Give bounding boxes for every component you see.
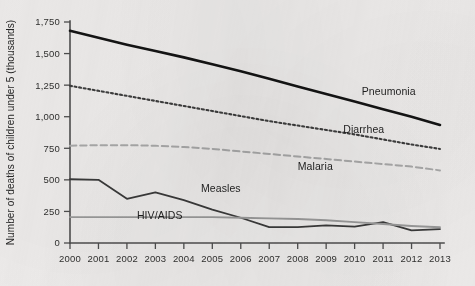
series-line-pneumonia [70,31,440,125]
y-axis-title-group: Number of deaths of children under 5 (th… [5,20,16,245]
line-chart: 02505007501,0001,2501,5001,7502000200120… [0,0,475,286]
x-axis-tick-label: 2004 [173,253,195,264]
x-axis-tick-label: 2005 [201,253,223,264]
x-axis-tick-label: 2008 [287,253,309,264]
x-axis-tick-label: 2007 [258,253,280,264]
x-axis-tick-label: 2003 [144,253,166,264]
series-line-measles [70,179,440,230]
x-axis-tick-label: 2001 [87,253,109,264]
y-axis-tick-label: 1,000 [35,111,60,122]
x-axis-tick-label: 2013 [429,253,451,264]
chart-container: 02505007501,0001,2501,5001,7502000200120… [0,0,475,286]
x-axis-tick-label: 2006 [230,253,252,264]
series-line-malaria [70,145,440,170]
x-axis-tick-label: 2010 [344,253,366,264]
y-axis-tick-label: 250 [44,206,60,217]
chart-series-layer [70,31,440,231]
y-axis-tick-label: 1,750 [35,16,60,27]
y-axis-tick-label: 1,500 [35,48,60,59]
series-label-diarrhea: Diarrhea [343,123,384,135]
series-label-measles: Measles [201,182,241,194]
y-axis-tick-label: 1,250 [35,80,60,91]
series-label-malaria: Malaria [298,160,333,172]
y-axis-title: Number of deaths of children under 5 (th… [5,20,16,245]
y-axis-tick-label: 750 [44,143,60,154]
x-axis-tick-label: 2000 [59,253,81,264]
x-axis-tick-label: 2002 [116,253,138,264]
y-axis-tick-label: 500 [44,174,60,185]
x-axis-tick-label: 2009 [315,253,337,264]
series-label-hiv-aids: HIV/AIDS [137,209,183,221]
x-axis-tick-label: 2011 [372,253,393,264]
series-label-pneumonia: Pneumonia [362,85,416,97]
x-axis-tick-label: 2012 [401,253,423,264]
y-axis-tick-label: 0 [55,237,60,248]
